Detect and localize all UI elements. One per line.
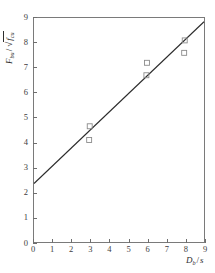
y-axis-tick-label: 5 [14,113,28,122]
y-axis-tick-label: 3 [14,163,28,172]
y-axis-title-text: Fbu/√fcu [3,31,15,64]
y-axis-tick [33,67,37,68]
fit-line-segment [34,22,204,184]
y-axis-tick [33,143,37,144]
x-axis-tick [167,239,168,243]
y-axis-tick-label: 1 [14,213,28,222]
y-axis-numerator-sub: bu [8,52,15,58]
plot-area [33,17,205,243]
y-axis-tick [33,218,37,219]
x-axis-tick [71,239,72,243]
x-axis-tick-label: 5 [122,245,136,254]
x-axis-tick-label: 8 [179,245,193,254]
x-axis-tick-label: 3 [83,245,97,254]
data-point-marker [182,50,187,55]
x-axis-tick [33,239,34,243]
x-axis-tick [205,239,206,243]
x-axis-tick [186,239,187,243]
y-axis-tick [33,168,37,169]
x-axis-tick-label: 9 [198,245,212,254]
x-axis-tick-label: 1 [45,245,59,254]
y-axis-tick-label: 7 [14,63,28,72]
y-axis-tick-label: 6 [14,88,28,97]
x-axis-tick-label: 2 [64,245,78,254]
y-axis-numerator-var: F [4,59,14,65]
y-axis-tick [33,92,37,93]
data-point-marker [87,137,92,142]
x-axis-tick-label: 0 [26,245,40,254]
y-axis-tick [33,117,37,118]
chart-figure: Fbu/√fcu Db/s 01234567890123456789 [0,0,215,273]
x-axis-denominator-var: s [200,255,204,265]
data-markers [87,38,188,143]
data-point-marker [144,60,149,65]
sqrt-icon: √fcu [3,31,15,47]
y-axis-tick-label: 4 [14,138,28,147]
y-axis-tick [33,193,37,194]
y-axis-tick-label: 8 [14,38,28,47]
x-axis-tick [148,239,149,243]
y-axis-tick [33,42,37,43]
x-axis-tick-label: 6 [141,245,155,254]
x-axis-tick [129,239,130,243]
fit-line [34,22,204,184]
y-axis-tick [33,17,37,18]
y-axis-tick-label: 9 [14,13,28,22]
x-axis-tick [109,239,110,243]
plot-canvas [34,18,204,242]
x-axis-tick [90,239,91,243]
x-axis-tick [52,239,53,243]
y-axis-radicand-var: f [4,38,14,41]
data-point-marker [87,124,92,129]
x-axis-tick-label: 7 [160,245,174,254]
y-axis-separator: / [4,48,14,53]
x-axis-title-text: Db/s [186,255,204,266]
x-axis-tick-label: 4 [102,245,116,254]
y-axis-tick-label: 2 [14,188,28,197]
